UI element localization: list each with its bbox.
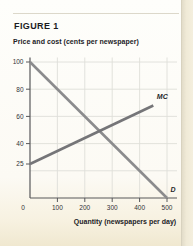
figure-chart: 254060801000100200300400500DMC <box>0 0 193 246</box>
x-tick-label: 0 <box>21 204 25 211</box>
page-edge <box>181 0 193 246</box>
x-tick-label: 500 <box>162 204 173 211</box>
marginal-cost-curve-label: MC <box>157 93 169 100</box>
y-tick-label: 80 <box>16 86 24 93</box>
x-tick-label: 200 <box>79 204 90 211</box>
x-tick-label: 300 <box>107 204 118 211</box>
marginal-cost-curve-line <box>30 106 153 164</box>
y-tick-label: 60 <box>16 113 24 120</box>
y-tick-label: 25 <box>16 160 24 167</box>
figure-panel: FIGURE 1 Price and cost (cents per newsp… <box>0 0 193 246</box>
y-tick-label: 100 <box>13 58 24 65</box>
x-axis-title: Quantity (newspapers per day) <box>57 218 193 225</box>
x-tick-label: 100 <box>52 204 63 211</box>
demand-curve-line <box>30 62 167 198</box>
x-tick-label: 400 <box>134 204 145 211</box>
demand-curve-label: D <box>171 186 176 193</box>
y-tick-label: 40 <box>16 140 24 147</box>
